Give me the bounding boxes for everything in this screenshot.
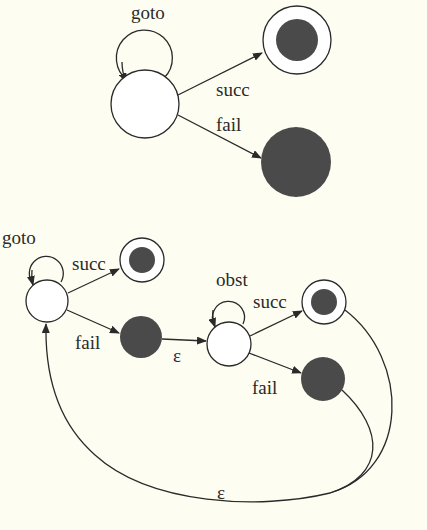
left-fail-label: fail xyxy=(75,333,100,352)
epsilon-edge-mid xyxy=(162,339,206,341)
right-succ-label: succ xyxy=(253,292,287,311)
obst-label: obst xyxy=(216,270,248,289)
top-succ-label: succ xyxy=(216,80,250,99)
left-start-state xyxy=(26,280,68,322)
right-fail-label: fail xyxy=(252,378,277,397)
epsilon-mid-label: ε xyxy=(173,346,181,365)
top-success-state-inner xyxy=(276,19,318,61)
right-fail-state xyxy=(301,357,345,401)
left-goto-label: goto xyxy=(2,228,36,247)
top-start-state xyxy=(111,70,179,138)
mid-state xyxy=(207,322,251,366)
return-curve-from-success xyxy=(330,310,392,493)
left-fail-edge xyxy=(67,310,119,333)
left-goto-loop-arrow xyxy=(32,270,33,285)
right-fail-edge xyxy=(249,353,301,373)
left-succ-label: succ xyxy=(72,254,106,273)
right-success-state-inner xyxy=(311,289,337,315)
top-goto-label: goto xyxy=(131,3,165,22)
mid-obst-loop-arrow xyxy=(213,310,215,327)
top-fail-label: fail xyxy=(216,115,241,134)
top-fail-state xyxy=(261,127,331,197)
state-diagram xyxy=(0,0,427,530)
return-curve-from-fail xyxy=(330,390,373,493)
left-fail-state xyxy=(120,316,162,358)
right-succ-edge xyxy=(250,311,302,336)
epsilon-back-label: ε xyxy=(217,483,225,502)
left-success-state-inner xyxy=(129,247,155,273)
